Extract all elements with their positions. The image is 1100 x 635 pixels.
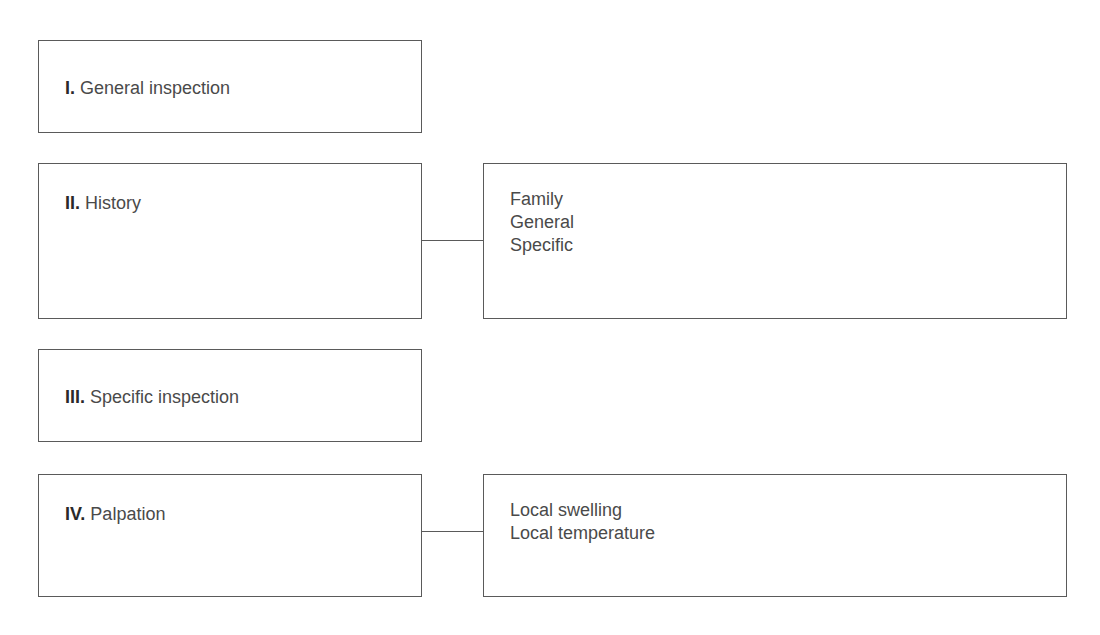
detail-item: Specific (510, 234, 574, 257)
step-numeral: IV. (65, 504, 85, 524)
step-label: I.General inspection (65, 77, 230, 99)
step-box-palpation: IV.Palpation (38, 474, 422, 597)
step-title: Palpation (90, 504, 165, 524)
detail-item: Local swelling (510, 499, 655, 522)
step-box-specific-inspection: III.Specific inspection (38, 349, 422, 442)
connector-line-history (421, 240, 484, 241)
step-label: III.Specific inspection (65, 386, 239, 408)
detail-box-palpation: Local swelling Local temperature (483, 474, 1067, 597)
step-box-history: II.History (38, 163, 422, 319)
step-label: IV.Palpation (65, 503, 165, 525)
detail-item: General (510, 211, 574, 234)
step-box-general-inspection: I.General inspection (38, 40, 422, 133)
detail-item: Family (510, 188, 574, 211)
step-label: II.History (65, 192, 141, 214)
step-numeral: I. (65, 78, 75, 98)
detail-list: Local swelling Local temperature (510, 499, 655, 545)
detail-list: Family General Specific (510, 188, 574, 257)
detail-box-history: Family General Specific (483, 163, 1067, 319)
step-title: General inspection (80, 78, 230, 98)
step-numeral: III. (65, 387, 85, 407)
step-numeral: II. (65, 193, 80, 213)
connector-line-palpation (421, 531, 484, 532)
step-title: History (85, 193, 141, 213)
step-title: Specific inspection (90, 387, 239, 407)
detail-item: Local temperature (510, 522, 655, 545)
